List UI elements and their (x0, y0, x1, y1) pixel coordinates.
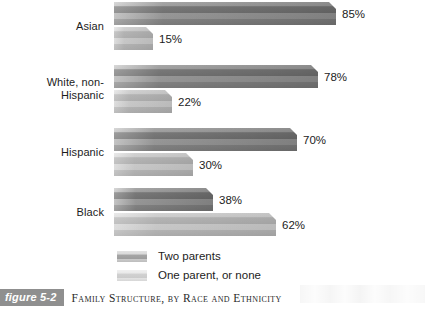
bar-one-parent-black (114, 213, 276, 236)
figure-caption: figure 5-2 Family Structure, by Race and… (0, 289, 429, 306)
bar-group-hispanic: Hispanic 70% 30% (0, 126, 429, 178)
category-label-hispanic: Hispanic (0, 146, 104, 159)
chart-plot-area: Asian 85% 15% White, non- Hispanic (0, 0, 429, 245)
category-label-black: Black (0, 206, 104, 219)
bar-two-parents-hispanic (114, 128, 297, 151)
bar-one-parent-white (114, 90, 172, 113)
bar-group-white-non-hispanic: White, non- Hispanic 78% 22% (0, 63, 429, 115)
bar-value-label: 15% (159, 33, 182, 45)
legend-swatch-two-parents (117, 251, 147, 262)
bar-two-parents-black (114, 188, 213, 211)
bar-value-label: 70% (303, 134, 326, 146)
bar-value-label: 22% (178, 96, 201, 108)
legend-swatch-one-parent-or-none (117, 270, 147, 281)
figure-container: Asian 85% 15% White, non- Hispanic (0, 0, 429, 311)
bar-two-parents-white (114, 65, 318, 88)
bar-two-parents-asian (114, 2, 336, 25)
bar-value-label: 78% (324, 71, 347, 83)
legend-label-one-parent-or-none: One parent, or none (158, 269, 261, 281)
category-label-line2: Hispanic (0, 89, 104, 102)
bar-value-label: 62% (282, 219, 305, 231)
bar-group-black: Black 38% 62% (0, 186, 429, 238)
bar-row-two-parents-black: 38% (114, 188, 213, 211)
category-label-line1: Asian (0, 20, 104, 33)
bar-value-label: 38% (219, 194, 242, 206)
category-label-line1: Hispanic (0, 146, 104, 159)
chart-legend: Two parents One parent, or none (117, 248, 261, 286)
category-label-asian: Asian (0, 20, 104, 33)
bar-value-label: 30% (199, 159, 222, 171)
legend-item-one-parent-or-none: One parent, or none (117, 267, 261, 283)
category-label-line1: White, non- (0, 76, 104, 89)
bar-row-two-parents-asian: 85% (114, 2, 336, 25)
bar-one-parent-asian (114, 27, 153, 50)
category-label-white-non-hispanic: White, non- Hispanic (0, 76, 104, 102)
bar-row-two-parents-hispanic: 70% (114, 128, 297, 151)
bar-group-asian: Asian 85% 15% (0, 0, 429, 52)
category-label-line1: Black (0, 206, 104, 219)
bar-value-label: 85% (342, 8, 365, 20)
figure-number-badge: figure 5-2 (0, 289, 64, 306)
legend-label-two-parents: Two parents (158, 250, 221, 262)
bar-row-two-parents-white: 78% (114, 65, 318, 88)
legend-item-two-parents: Two parents (117, 248, 261, 264)
bar-one-parent-hispanic (114, 153, 193, 176)
bar-row-one-parent-black: 62% (114, 213, 276, 236)
bar-row-one-parent-white: 22% (114, 90, 172, 113)
bar-row-one-parent-asian: 15% (114, 27, 153, 50)
figure-title: Family Structure, by Race and Ethnicity (72, 292, 282, 304)
bar-row-one-parent-hispanic: 30% (114, 153, 193, 176)
